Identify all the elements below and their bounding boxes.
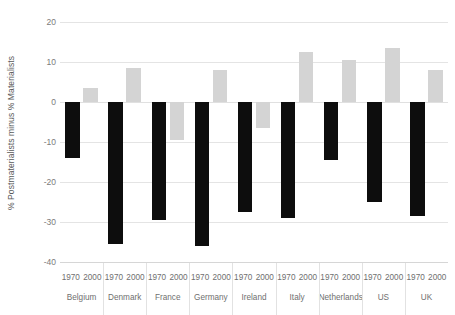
year-tick-label: 1970	[276, 271, 298, 285]
year-tick-label: 1970	[146, 271, 168, 285]
year-tick-row: 19702000	[232, 271, 275, 285]
country-label: Netherlands	[319, 293, 362, 302]
bar-germany-2000	[213, 70, 228, 102]
category-separator	[319, 263, 320, 315]
bar-belgium-1970	[65, 102, 80, 158]
year-tick-row: 19702000	[146, 271, 189, 285]
bar-germany-1970	[195, 102, 210, 246]
y-tick-label: 20	[22, 17, 56, 27]
year-tick-label: 1970	[362, 271, 384, 285]
country-label: US	[362, 293, 405, 302]
bar-france-2000	[170, 102, 185, 140]
year-tick-row: 19702000	[319, 271, 362, 285]
year-tick-label: 2000	[340, 271, 362, 285]
year-tick-label: 2000	[254, 271, 276, 285]
year-tick-label: 2000	[125, 271, 147, 285]
year-tick-label: 1970	[319, 271, 341, 285]
bar-ireland-2000	[256, 102, 271, 128]
category-separator	[103, 263, 104, 315]
bar-france-1970	[152, 102, 167, 220]
category-group-italy: 19702000Italy	[276, 263, 319, 315]
category-group-netherlands: 19702000Netherlands	[319, 263, 362, 315]
y-tick-label: 0	[22, 97, 56, 107]
category-separator	[189, 263, 190, 315]
bar-chart: % Postmaterialists minus % Materialists …	[0, 0, 455, 315]
bar-netherlands-1970	[324, 102, 339, 160]
bar-belgium-2000	[83, 88, 98, 102]
year-tick-label: 2000	[383, 271, 405, 285]
country-label: UK	[405, 293, 448, 302]
category-separator	[146, 263, 147, 315]
category-group-uk: 19702000UK	[405, 263, 448, 315]
year-tick-label: 1970	[232, 271, 254, 285]
category-group-belgium: 19702000Belgium	[60, 263, 103, 315]
year-tick-label: 2000	[426, 271, 448, 285]
year-tick-label: 1970	[60, 271, 82, 285]
year-tick-label: 2000	[168, 271, 190, 285]
bar-denmark-2000	[126, 68, 141, 102]
country-label: Germany	[189, 293, 232, 302]
year-tick-label: 1970	[405, 271, 427, 285]
y-tick-label: -40	[22, 257, 56, 267]
bar-ireland-1970	[238, 102, 253, 212]
category-group-france: 19702000France	[146, 263, 189, 315]
category-separator	[232, 263, 233, 315]
y-axis-title-label: % Postmaterialists minus % Materialists	[6, 55, 16, 209]
category-separator	[362, 263, 363, 315]
bar-netherlands-2000	[342, 60, 357, 102]
year-tick-row: 19702000	[362, 271, 405, 285]
plot-area	[60, 22, 448, 262]
year-tick-label: 2000	[297, 271, 319, 285]
bar-denmark-1970	[108, 102, 123, 244]
year-tick-row: 19702000	[189, 271, 232, 285]
bar-italy-1970	[281, 102, 296, 218]
year-tick-row: 19702000	[60, 271, 103, 285]
category-separator	[405, 263, 406, 315]
y-tick-label: -20	[22, 177, 56, 187]
category-separator	[276, 263, 277, 315]
category-group-us: 19702000US	[362, 263, 405, 315]
category-group-germany: 19702000Germany	[189, 263, 232, 315]
bar-us-2000	[385, 48, 400, 102]
year-tick-label: 2000	[82, 271, 104, 285]
y-tick-label: -30	[22, 217, 56, 227]
category-group-denmark: 19702000Denmark	[103, 263, 146, 315]
country-label: Denmark	[103, 293, 146, 302]
bar-uk-1970	[410, 102, 425, 216]
bar-uk-2000	[428, 70, 443, 102]
y-tick-label: 10	[22, 57, 56, 67]
year-tick-row: 19702000	[276, 271, 319, 285]
y-tick-label: -10	[22, 137, 56, 147]
category-axis: 19702000Belgium19702000Denmark19702000Fr…	[60, 262, 448, 315]
year-tick-label: 2000	[211, 271, 233, 285]
y-axis-tick-labels: 20100-10-20-30-40	[18, 22, 56, 262]
category-group-ireland: 19702000Ireland	[232, 263, 275, 315]
year-tick-row: 19702000	[405, 271, 448, 285]
gridline-20	[60, 22, 448, 23]
bar-us-1970	[367, 102, 382, 202]
year-tick-label: 1970	[189, 271, 211, 285]
country-label: Belgium	[60, 293, 103, 302]
country-label: Italy	[276, 293, 319, 302]
bar-italy-2000	[299, 52, 314, 102]
country-label: France	[146, 293, 189, 302]
country-label: Ireland	[232, 293, 275, 302]
year-tick-row: 19702000	[103, 271, 146, 285]
year-tick-label: 1970	[103, 271, 125, 285]
